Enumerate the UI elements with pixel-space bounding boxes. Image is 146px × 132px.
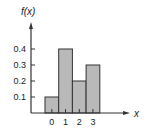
x-tick-label: 2	[77, 117, 82, 127]
probability-histogram: 0.10.20.30.4 0123 f(x) x	[0, 0, 146, 132]
y-axis-title: f(x)	[21, 6, 35, 17]
bar-3	[86, 65, 100, 113]
bar-1	[59, 49, 73, 113]
x-tick-label: 0	[49, 117, 54, 127]
x-axis-title: x	[133, 108, 140, 119]
bar-2	[72, 81, 86, 113]
x-axis-arrow-icon	[123, 111, 130, 115]
y-axis-arrow-icon	[29, 22, 33, 29]
y-tick-label: 0.4	[13, 44, 26, 54]
x-tick-label: 3	[90, 117, 95, 127]
x-tick-label: 1	[63, 117, 68, 127]
y-tick-label: 0.3	[13, 60, 26, 70]
y-tick-label: 0.2	[13, 76, 26, 86]
y-ticks: 0.10.20.30.4	[13, 44, 35, 102]
y-tick-label: 0.1	[13, 92, 26, 102]
bars	[45, 49, 100, 113]
